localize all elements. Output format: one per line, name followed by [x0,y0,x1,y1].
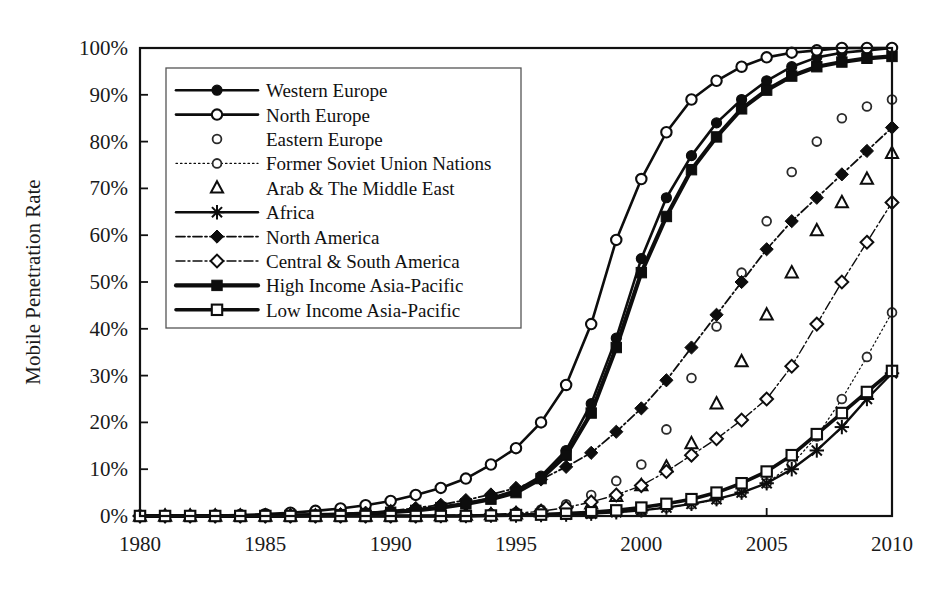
marker [762,217,771,226]
marker [636,174,646,184]
marker [837,57,847,67]
marker [861,236,874,249]
marker [511,443,521,453]
marker [212,280,222,290]
marker [759,476,773,490]
marker [786,266,798,277]
marker [812,62,822,72]
marker [787,71,797,81]
legend-item-label: Africa [266,202,315,223]
marker [536,473,546,483]
marker [837,114,846,123]
marker [686,494,696,504]
marker [835,276,848,289]
marker [661,127,671,137]
marker [561,450,571,460]
y-tick-label: 100% [79,36,128,60]
legend-item-label: Low Income Asia-Pacific [266,300,460,321]
marker [661,193,671,203]
marker [711,487,721,497]
marker [486,494,496,504]
marker [686,94,696,104]
mobile-penetration-chart: Mobile Penetration Rate0%10%20%30%40%50%… [0,0,945,599]
marker [761,308,773,319]
y-tick-label: 50% [90,270,129,294]
x-tick-label: 2010 [871,532,913,556]
y-axis: 0%10%20%30%40%50%60%70%80%90%100% [79,36,148,528]
marker [812,45,822,55]
marker [787,62,797,72]
marker [810,443,824,457]
marker [662,425,671,434]
marker [712,322,721,331]
marker [586,319,596,329]
marker [636,267,646,277]
marker [710,432,723,445]
marker [213,159,222,168]
marker [736,104,746,114]
marker [862,387,872,397]
marker [486,459,496,469]
x-tick-label: 2005 [746,532,788,556]
marker [637,460,646,469]
marker [787,450,797,460]
marker [861,172,873,183]
marker [611,342,621,352]
x-tick-label: 2000 [620,532,662,556]
y-axis-title: Mobile Penetration Rate [21,179,45,384]
y-tick-label: 80% [90,130,129,154]
x-tick-label: 1995 [495,532,537,556]
x-tick-label: 1985 [244,532,286,556]
marker [863,102,872,111]
marker [785,360,798,373]
marker [213,135,222,144]
marker [862,53,872,63]
marker [661,499,671,509]
marker [612,477,621,486]
marker [711,132,721,142]
x-tick-label: 1990 [370,532,412,556]
marker [685,449,698,462]
marker [811,224,823,235]
marker [712,118,722,128]
marker [611,235,621,245]
legend-item-label: Central & South America [266,251,460,272]
marker [461,499,471,509]
legend: Western EuropeNorth EuropeEastern Europe… [166,68,521,328]
marker [411,490,421,500]
marker [761,466,771,476]
marker [787,168,796,177]
y-tick-label: 20% [90,410,129,434]
marker [536,417,546,427]
marker [561,380,571,390]
marker [812,137,821,146]
marker [686,151,696,161]
y-tick-label: 60% [90,223,129,247]
marker [686,164,696,174]
marker [661,211,671,221]
y-tick-label: 40% [90,317,129,341]
marker [737,94,747,104]
marker [210,205,224,219]
marker [636,502,646,512]
legend-item-label: Eastern Europe [266,129,383,150]
y-tick-label: 90% [90,83,129,107]
legend-item-label: Arab & The Middle East [266,178,455,199]
marker [812,429,822,439]
marker [561,508,571,518]
marker [586,408,596,418]
legend-item-label: Former Soviet Union Nations [266,153,491,174]
marker [736,478,746,488]
marker [835,168,848,181]
marker [810,318,823,331]
y-tick-label: 30% [90,364,129,388]
marker [785,462,799,476]
marker [736,62,746,72]
marker [212,109,222,119]
y-tick-label: 0% [100,504,128,528]
y-tick-label: 10% [90,457,129,481]
marker [711,76,721,86]
marker [436,483,446,493]
marker [611,505,621,515]
legend-item-label: North Europe [266,105,370,126]
